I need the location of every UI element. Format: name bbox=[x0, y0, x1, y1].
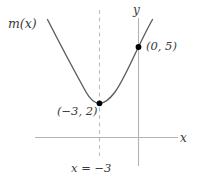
axis-of-symmetry-label: x = −3 bbox=[71, 163, 111, 175]
function-label: m(x) bbox=[8, 18, 37, 31]
y-intercept-point-label: (0, 5) bbox=[146, 41, 177, 53]
parabola-curve bbox=[48, 20, 153, 104]
x-axis-label: x bbox=[180, 132, 187, 144]
y-axis-label: y bbox=[133, 4, 140, 16]
y-intercept-point-marker bbox=[136, 44, 142, 50]
vertex-point-label: (−3, 2) bbox=[57, 106, 98, 118]
parabola-figure: m(x) y x (0, 5) (−3, 2) x = −3 bbox=[0, 0, 197, 187]
